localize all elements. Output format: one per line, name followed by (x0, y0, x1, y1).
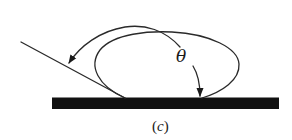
figure-caption: (c) (152, 118, 169, 135)
droplet-outline (95, 32, 239, 98)
substrate-bar (52, 98, 279, 110)
angle-label: θ (176, 46, 186, 66)
angle-arrow-inner (193, 66, 200, 96)
diagram-canvas: θ (c) (0, 0, 292, 140)
contact-angle-figure: θ (c) (0, 0, 292, 140)
